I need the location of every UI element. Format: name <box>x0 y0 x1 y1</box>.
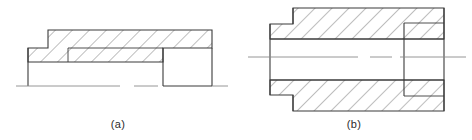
figure-a-caption: (a) <box>0 118 236 130</box>
figure-b-caption: (b) <box>236 118 472 130</box>
figure-b-upper-wall-hatching <box>270 8 444 39</box>
figure-sheet: (a) (b) <box>0 0 472 140</box>
figure-b-lower-wall-hatching <box>270 80 444 111</box>
figure-b-group <box>248 8 466 111</box>
figure-a-section-hatching <box>28 30 212 62</box>
figure-a-group <box>16 30 228 86</box>
